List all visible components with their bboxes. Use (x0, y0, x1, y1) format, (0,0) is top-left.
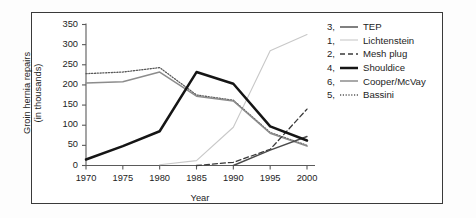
legend-item-bassini[interactable]: 5,Bassini (327, 88, 467, 102)
legend-item-lichtenstein[interactable]: 1,Lichtenstein (327, 34, 467, 48)
legend-item-number: 5, (327, 89, 338, 100)
legend-line-swatch-icon (339, 22, 359, 32)
data-series-group (86, 35, 307, 166)
axis-lines (86, 24, 315, 166)
legend-item-label: Bassini (363, 89, 394, 100)
chart-legend: 3,TEP1,Lichtenstein2,Mesh plug4,Shouldic… (327, 20, 467, 102)
series-line-cooper-mcvay (86, 72, 307, 146)
series-line-bassini (86, 68, 307, 146)
legend-item-number: 6, (327, 76, 338, 87)
legend-item-number: 3, (327, 21, 338, 32)
legend-item-number: 4, (327, 62, 338, 73)
legend-item-label: Lichtenstein (363, 35, 414, 46)
legend-item-label: Cooper/McVay (363, 76, 426, 87)
legend-item-number: 2, (327, 48, 338, 59)
legend-item-number: 1, (327, 35, 338, 46)
legend-item-cooper-mcvay[interactable]: 6,Cooper/McVay (327, 74, 467, 88)
legend-item-mesh-plug[interactable]: 2,Mesh plug (327, 47, 467, 61)
legend-line-swatch-icon (339, 76, 359, 86)
series-line-tep (233, 136, 307, 165)
legend-line-swatch-icon (339, 35, 359, 45)
chart-figure: Groin hernia repairs (in thousands) Year… (0, 0, 476, 218)
legend-item-label: Shouldice (363, 62, 405, 73)
legend-item-shouldice[interactable]: 4,Shouldice (327, 61, 467, 75)
legend-item-label: TEP (363, 21, 382, 32)
legend-line-swatch-icon (339, 90, 359, 100)
legend-line-swatch-icon (339, 49, 359, 59)
legend-item-label: Mesh plug (363, 48, 407, 59)
legend-item-tep[interactable]: 3,TEP (327, 20, 467, 34)
legend-line-swatch-icon (339, 63, 359, 73)
series-line-shouldice (86, 72, 307, 159)
